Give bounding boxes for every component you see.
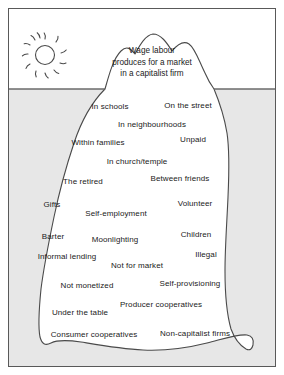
peak-title-line-3: in a capitalist firm [112, 68, 192, 80]
peak-title-line-1: Wage labour [112, 45, 192, 57]
iceberg-label: Not monetized [61, 280, 114, 291]
iceberg-label: Moonlighting [92, 234, 139, 245]
iceberg-label: Volunteer [178, 198, 213, 209]
iceberg-label: Consumer cooperatives [51, 329, 138, 340]
iceberg-label: Non-capitalist firms [160, 328, 230, 339]
iceberg-label: Illegal [195, 249, 217, 260]
iceberg-label: In neighbourhoods [118, 119, 186, 130]
iceberg-label: Under the table [52, 307, 108, 318]
iceberg-label: Producer cooperatives [120, 299, 202, 310]
iceberg-label: Children [181, 229, 212, 240]
iceberg-label: In church/temple [107, 156, 168, 167]
iceberg-label: Unpaid [180, 134, 206, 145]
iceberg-label: Gifts [44, 199, 61, 210]
iceberg-label: Self-employment [85, 208, 147, 219]
iceberg-scene: Wage labour produces for a market in a c… [9, 9, 275, 366]
iceberg-label: Within families [71, 137, 124, 148]
iceberg-labels: Wage labour produces for a market in a c… [9, 9, 275, 366]
iceberg-label: The retired [63, 176, 103, 187]
iceberg-label: Self-provisioning [160, 278, 221, 289]
peak-title-line-2: produces for a market [112, 57, 192, 69]
iceberg-label: In schools [91, 101, 128, 112]
iceberg-label: Between friends [151, 173, 210, 184]
iceberg-label: On the street [164, 100, 212, 111]
peak-title: Wage labour produces for a market in a c… [112, 45, 192, 80]
iceberg-label: Informal lending [38, 251, 97, 262]
diagram-frame: Wage labour produces for a market in a c… [8, 8, 276, 367]
iceberg-label: Barter [42, 231, 64, 242]
iceberg-diagram-page: Wage labour produces for a market in a c… [0, 0, 284, 375]
iceberg-label: Not for market [111, 260, 163, 271]
